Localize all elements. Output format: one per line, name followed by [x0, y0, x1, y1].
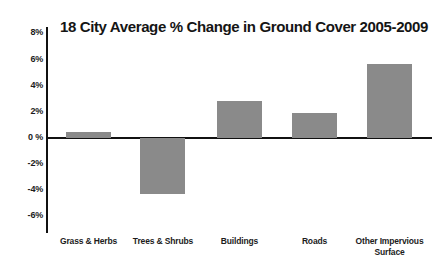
x-axis-label-line1: Trees & Shrubs: [133, 236, 193, 246]
bar-buildings: [217, 101, 262, 138]
x-axis-category-labels: Grass & HerbsTrees & ShrubsBuildingsRoad…: [0, 236, 441, 263]
bar-trees-shrubs: [140, 138, 185, 194]
x-axis-label-line1: Other Impervious: [356, 236, 424, 246]
x-axis-label-line1: Grass & Herbs: [60, 236, 117, 246]
x-axis-label-line2: Surface: [342, 247, 438, 258]
bars-layer: [0, 0, 441, 263]
bar-roads: [292, 113, 337, 138]
bar-chart: 18 City Average % Change in Ground Cover…: [0, 0, 441, 263]
bar-other-impervious-surface: [367, 64, 412, 138]
bar-grass-herbs: [66, 132, 111, 138]
x-axis-label-line1: Roads: [302, 236, 327, 246]
x-axis-label-line1: Buildings: [221, 236, 258, 246]
x-axis-label-other-impervious-surface: Other ImperviousSurface: [342, 236, 438, 258]
